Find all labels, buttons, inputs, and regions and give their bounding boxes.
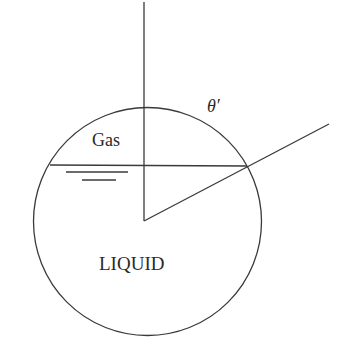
free-surface-line: [50, 165, 247, 166]
angle-label: θ′: [207, 96, 221, 116]
gas-label: Gas: [92, 130, 120, 150]
liquid-label: LIQUID: [99, 253, 164, 274]
container-circle: [34, 108, 262, 336]
diagram-canvas: Gas LIQUID θ′: [0, 0, 345, 350]
contact-angle-ray: [144, 124, 329, 221]
